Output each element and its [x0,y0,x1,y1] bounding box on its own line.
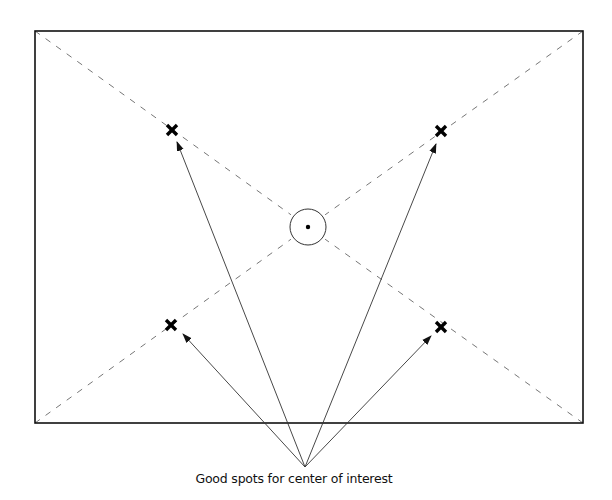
x-mark-icon [166,320,176,330]
diagonal-guide-line [325,31,583,215]
x-mark-icon [436,126,446,136]
arrow-lower-left [183,334,305,467]
diagram-caption: Good spots for center of interest [0,471,588,486]
x-mark-icon [436,322,446,332]
diagonal-guide-line [35,239,291,423]
composition-diagram [0,0,612,500]
diagonal-guide-line [325,239,583,423]
diagonal-guide-line [35,31,291,215]
pointer-arrows [177,142,436,467]
center-circle [290,209,326,245]
center-dot-icon [306,225,310,229]
x-mark-icon [167,125,177,135]
arrow-upper-left [177,142,305,467]
arrow-lower-right [305,336,431,467]
arrow-upper-right [305,144,436,467]
